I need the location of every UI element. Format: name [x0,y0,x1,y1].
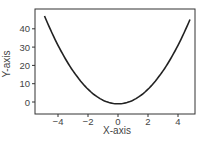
plot-frame [35,9,195,114]
chart: −4−2024 010203040 X-axis Y-axis [0,0,199,141]
svg-text:4: 4 [175,116,180,127]
svg-text:0: 0 [25,97,30,108]
svg-text:40: 40 [19,23,30,34]
svg-text:−4: −4 [53,116,64,127]
svg-text:−2: −2 [83,116,94,127]
x-axis-label: X-axis [103,125,131,136]
y-axis-label: Y-axis [1,51,12,78]
svg-text:2: 2 [145,116,150,127]
svg-text:30: 30 [19,42,30,53]
svg-text:10: 10 [19,78,30,89]
y-axis-ticks: 010203040 [19,23,35,107]
svg-text:20: 20 [19,60,30,71]
